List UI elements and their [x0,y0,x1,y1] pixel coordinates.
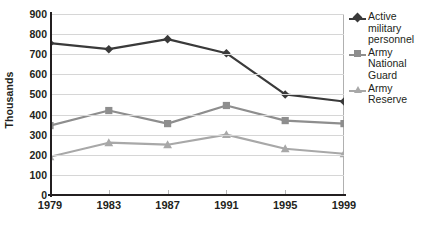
data-point-square-marker [105,107,112,114]
chart-series-layer [50,14,344,195]
gridline [50,135,344,136]
legend-symbol [354,86,362,93]
data-point-square-marker [282,117,289,124]
chart-legend: Active military personnelArmy National G… [349,11,426,107]
y-axis-tick-label: 600 [29,68,47,80]
data-point-square-marker [164,120,171,127]
gridline [50,94,344,95]
legend-marker-diamond-icon [349,12,366,25]
y-axis-title: Thousands [0,0,18,200]
gridline [50,155,344,156]
data-point-square-marker [223,102,230,109]
gridline [50,34,344,35]
series-line [50,135,344,157]
series-2 [50,102,344,129]
x-axis-tick-label: 1979 [38,199,62,211]
data-point-diamond-marker [105,45,114,54]
legend-item-1[interactable]: Active military personnel [349,11,426,46]
legend-label: Army Reserve [368,83,407,106]
data-point-diamond-marker [340,97,344,106]
gridline [50,14,344,15]
gridline [50,74,344,75]
x-axis-tick-label: 1999 [332,199,356,211]
gridline [50,54,344,55]
legend-symbol [353,13,363,23]
data-point-square-marker [340,120,344,127]
y-axis-tick-label: 200 [29,149,47,161]
x-axis-tick-labels: 197919831987199119951999 [50,199,344,219]
plot-area [50,14,344,195]
y-axis-title-text: Thousands [3,72,15,129]
x-axis-tick-label: 1991 [214,199,238,211]
x-axis-tick-label: 1995 [273,199,297,211]
y-axis-tick-label: 800 [29,28,47,40]
legend-marker-square-icon [349,48,366,61]
y-axis-tick-labels: 0100200300400500600700800900 [18,0,50,200]
legend-symbol [354,50,361,57]
x-axis-line [48,194,346,196]
y-axis-tick-label: 900 [29,8,47,20]
x-axis-tick-label: 1983 [97,199,121,211]
y-axis-tick-label: 500 [29,88,47,100]
gridline [50,175,344,176]
y-axis-tick-label: 700 [29,48,47,60]
legend-label: Army National Guard [368,47,407,82]
chart-screenshot: Thousands 0100200300400500600700800900 1… [0,0,426,226]
legend-item-2[interactable]: Army National Guard [349,47,426,82]
gridline [50,115,344,116]
y-axis-tick-label: 300 [29,129,47,141]
series-line [50,106,344,126]
legend-label: Active military personnel [368,11,414,46]
x-axis-tick-label: 1987 [155,199,179,211]
legend-item-3[interactable]: Army Reserve [349,83,426,106]
y-axis-line [50,12,52,197]
y-axis-tick-label: 100 [29,169,47,181]
series-line [50,39,344,101]
data-point-diamond-marker [163,35,172,44]
y-axis-tick-label: 400 [29,109,47,121]
legend-marker-triangle-icon [349,84,366,97]
